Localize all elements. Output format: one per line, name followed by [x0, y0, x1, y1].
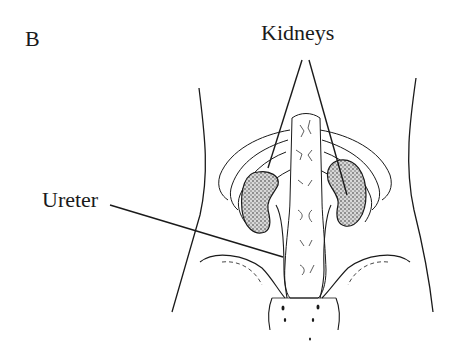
sacrum-marks: [282, 305, 320, 341]
left-kidney: [242, 172, 279, 233]
anatomy-illustration: [0, 0, 457, 347]
spine: [285, 114, 326, 299]
